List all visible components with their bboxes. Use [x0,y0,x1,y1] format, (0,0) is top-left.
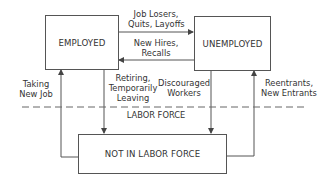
flow-label-job-losers: Job Losers, Quits, Layoffs [128,9,184,29]
unemployed-label: UNEMPLOYED [203,39,263,49]
employed-label: EMPLOYED [59,38,106,48]
not-in-labor-force-node: NOT IN LABOR FORCE [78,134,227,174]
arrow-nilf-to-employed [61,70,78,157]
flow-label-retiring: Retiring, Temporarily Leaving [107,73,159,103]
labor-force-label: LABOR FORCE [118,110,194,120]
not-in-labor-force-label: NOT IN LABOR FORCE [105,149,200,159]
unemployed-node: UNEMPLOYED [194,16,271,71]
flow-label-new-hires: New Hires, Recalls [128,38,184,58]
flow-label-taking-new-job: Taking New Job [15,79,57,99]
flow-label-discouraged: Discouraged Workers [158,78,210,98]
flow-label-reentrants: Reentrants, New Entrants [258,78,320,98]
arrow-nilf-to-unemployed [226,71,254,156]
employed-node: EMPLOYED [45,15,119,70]
